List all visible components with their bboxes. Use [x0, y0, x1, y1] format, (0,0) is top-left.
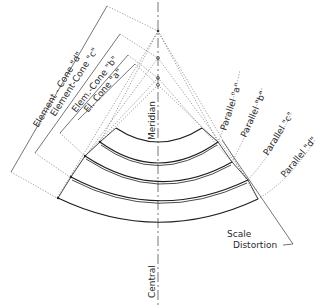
label-meridian: Meridian: [147, 101, 157, 140]
parallel-bands: [57, 128, 258, 222]
label-parallel-b: Parallel "b": [239, 89, 268, 138]
label-element-cone-d: Element - Cone "d": [31, 50, 84, 129]
label-central: Central: [147, 265, 157, 298]
label-distortion: Distortion: [233, 240, 277, 250]
cone-d-apex-dot: [157, 30, 160, 33]
label-parallel-a-top: Parallel "a": [218, 81, 243, 131]
label-parallel-d: Parallel "d": [279, 135, 319, 179]
projection-diagram: Element - Cone "d" Element-Cone "c" Elem…: [0, 0, 324, 308]
label-parallel-c: Parallel "c": [261, 110, 295, 157]
label-scale: Scale: [227, 229, 252, 239]
